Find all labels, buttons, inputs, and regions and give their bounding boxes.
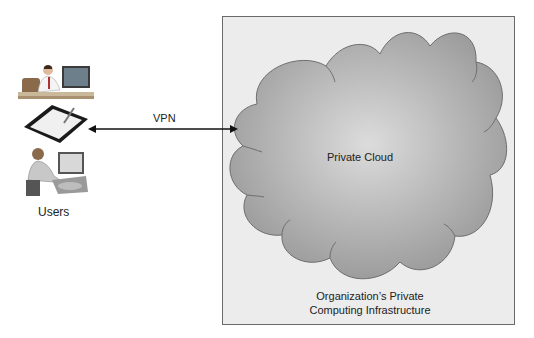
person-at-laptop-icon	[24, 146, 92, 198]
private-cloud-shape	[222, 16, 515, 325]
vpn-bidirectional-arrow	[86, 122, 242, 136]
tablet-with-stylus-icon	[22, 103, 92, 145]
infrastructure-label: Organization’s Private Computing Infrast…	[290, 289, 450, 317]
users-label: Users	[38, 205, 69, 219]
person-at-desktop-icon	[18, 62, 94, 102]
private-cloud-label: Private Cloud	[300, 151, 420, 163]
infrastructure-label-line2: Computing Infrastructure	[290, 303, 450, 317]
infrastructure-label-line1: Organization’s Private	[290, 289, 450, 303]
vpn-label: VPN	[153, 112, 176, 124]
